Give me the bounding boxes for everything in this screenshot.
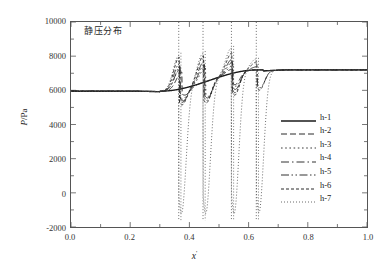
legend-line-sample [281, 166, 316, 176]
x-tick-label: 0.2 [124, 232, 135, 242]
legend-label: h-7 [320, 194, 331, 203]
legend-line-sample [281, 139, 316, 149]
legend-item[interactable]: h-3 [281, 137, 373, 151]
x-tick-label: 0.6 [243, 232, 254, 242]
series-line [71, 62, 367, 101]
legend-item[interactable]: h-2 [281, 124, 373, 138]
legend-item[interactable]: h-4 [281, 151, 373, 165]
x-tick-label: 1.0 [363, 232, 374, 242]
legend-line-sample [281, 180, 316, 190]
y-tick-label: 10000 [8, 16, 70, 26]
y-axis-title-unit: /Pa [19, 109, 29, 121]
legend-item[interactable]: h-5 [281, 164, 373, 178]
x-tick-label: 0.4 [184, 232, 195, 242]
x-axis-title: x' [0, 249, 389, 261]
legend-label: h-4 [320, 153, 331, 162]
legend-item[interactable]: h-1 [281, 110, 373, 124]
legend-label: h-6 [320, 181, 331, 190]
legend-label: h-2 [320, 126, 331, 135]
legend-line-sample [281, 193, 316, 203]
y-axis-title-symbol: P [19, 120, 29, 126]
legend-label: h-5 [320, 167, 331, 176]
x-axis-tick-labels: 0.00.20.40.60.81.0 [0, 232, 389, 248]
legend-label: h-1 [320, 113, 331, 122]
y-tick-label: 0 [8, 189, 70, 199]
legend-item[interactable]: h-6 [281, 178, 373, 192]
legend-label: h-3 [320, 140, 331, 149]
legend-item[interactable]: h-7 [281, 192, 373, 206]
chart-figure: -20000200040006000800010000 P/Pa 静压分布 0.… [0, 0, 389, 274]
x-tick-label: 0.0 [65, 232, 76, 242]
y-tick-label: 6000 [8, 85, 70, 95]
x-tick-label: 0.8 [303, 232, 314, 242]
series-line [71, 70, 367, 92]
y-tick-label: 8000 [8, 51, 70, 61]
legend-line-sample [281, 125, 316, 135]
x-axis-title-prime: ' [196, 249, 197, 257]
y-tick-label: 4000 [8, 120, 70, 130]
y-tick-label: 2000 [8, 154, 70, 164]
legend-line-sample [281, 112, 316, 122]
plot-annotation: 静压分布 [84, 24, 122, 37]
legend-line-sample [281, 153, 316, 163]
chart-legend: h-1h-2h-3h-4h-5h-6h-7 [281, 110, 373, 205]
y-axis-title: P/Pa [19, 87, 29, 147]
series-line [71, 59, 367, 102]
